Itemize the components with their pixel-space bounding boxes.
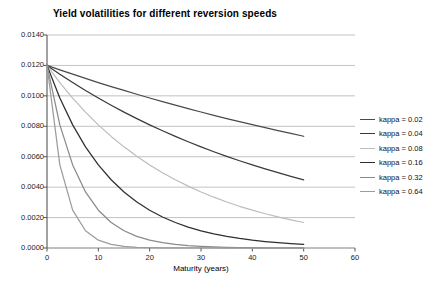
legend-item[interactable]: kappa = 0.04 <box>360 127 434 142</box>
legend-swatch-icon <box>360 148 375 149</box>
legend-label: kappa = 0.04 <box>379 129 423 138</box>
legend-label: kappa = 0.32 <box>379 173 423 182</box>
x-tick-label: 50 <box>289 253 319 262</box>
x-tick-label: 0 <box>32 253 62 262</box>
legend-item[interactable]: kappa = 0.02 <box>360 112 434 127</box>
legend-item[interactable]: kappa = 0.64 <box>360 185 434 200</box>
x-axis-title: Maturity (years) <box>47 264 355 273</box>
legend-swatch-icon <box>360 177 375 178</box>
legend-label: kappa = 0.08 <box>379 144 423 153</box>
chart-container: Yield volatilities for different reversi… <box>0 0 434 284</box>
x-tick-label: 40 <box>237 253 267 262</box>
legend-swatch-icon <box>360 191 375 192</box>
legend-label: kappa = 0.64 <box>379 187 423 196</box>
chart-legend: kappa = 0.02kappa = 0.04kappa = 0.08kapp… <box>360 112 434 199</box>
legend-swatch-icon <box>360 119 375 120</box>
x-tick-label: 10 <box>83 253 113 262</box>
legend-swatch-icon <box>360 162 375 163</box>
legend-item[interactable]: kappa = 0.16 <box>360 156 434 171</box>
legend-label: kappa = 0.02 <box>379 115 423 124</box>
legend-label: kappa = 0.16 <box>379 158 423 167</box>
x-tick-label: 20 <box>135 253 165 262</box>
legend-swatch-icon <box>360 133 375 134</box>
legend-item[interactable]: kappa = 0.32 <box>360 170 434 185</box>
x-tick-label: 60 <box>340 253 370 262</box>
legend-item[interactable]: kappa = 0.08 <box>360 141 434 156</box>
x-tick-label: 30 <box>186 253 216 262</box>
